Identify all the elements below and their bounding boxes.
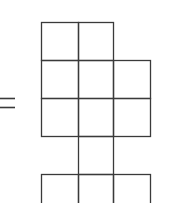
grid-cell <box>79 23 114 61</box>
grid-diagram <box>0 0 172 203</box>
grid-cell <box>79 175 114 204</box>
grid-cell <box>114 99 151 137</box>
grid-cell <box>114 61 151 99</box>
grid-cells <box>42 23 151 204</box>
grid-cell <box>42 23 79 61</box>
grid-cell <box>42 99 79 137</box>
grid-cell <box>79 137 114 175</box>
equals-sign <box>0 99 15 108</box>
grid-cell <box>79 99 114 137</box>
grid-cell <box>42 175 79 204</box>
grid-cell <box>79 61 114 99</box>
grid-cell <box>114 175 151 204</box>
grid-cell <box>42 61 79 99</box>
